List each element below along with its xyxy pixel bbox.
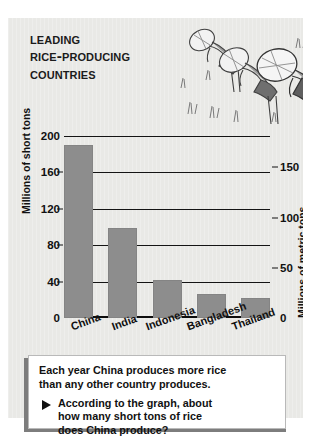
caption-question-line-3: does China produce? — [58, 424, 212, 438]
y-tick-80 — [57, 245, 63, 246]
y2-tick-label-0: 0 — [280, 312, 286, 324]
y2-tick-150 — [272, 167, 278, 168]
y2-tick-50 — [272, 267, 278, 268]
y-tick-40 — [57, 281, 63, 282]
y-tick-label-0: 0 — [54, 312, 60, 324]
rice-farmers-illustration — [176, 18, 303, 130]
title-line-1: Leading — [30, 30, 180, 47]
y2-tick-label-50: 50 — [280, 262, 293, 274]
y-tick-160 — [57, 172, 63, 173]
worksheet-page: Leading Rice-Producing Countries — [0, 0, 311, 440]
bar-india — [108, 228, 137, 318]
caption-question: According to the graph, about how many s… — [39, 397, 276, 438]
bar-series — [64, 136, 270, 318]
caption-question-line-2: how many short tons of rice — [58, 410, 212, 424]
caption-question-text: According to the graph, about how many s… — [58, 397, 212, 438]
y-axis-title-left: Millions of short tons — [20, 108, 32, 214]
bar-china — [64, 145, 93, 318]
y-tick-120 — [57, 208, 63, 209]
y-tick-label-200: 200 — [41, 130, 60, 142]
caption-statement-line-1: Each year China produces more rice — [39, 364, 276, 378]
caption-statement-line-2: than any other country produces. — [39, 378, 276, 392]
title-line-2: Rice-Producing — [30, 47, 180, 64]
y-axis-title-right: Millions of metric tons — [296, 207, 303, 318]
caption-box: Each year China produces more rice than … — [28, 355, 286, 429]
page-title: Leading Rice-Producing Countries — [30, 30, 180, 82]
caption-question-line-1: According to the graph, about — [58, 397, 212, 411]
bar-chart: 200 160 120 80 40 0 150 100 50 0 — [56, 118, 270, 318]
title-line-3: Countries — [30, 65, 180, 82]
triangle-bullet-icon — [42, 400, 51, 410]
y2-tick-label-150: 150 — [280, 161, 299, 173]
y2-tick-100 — [272, 217, 278, 218]
